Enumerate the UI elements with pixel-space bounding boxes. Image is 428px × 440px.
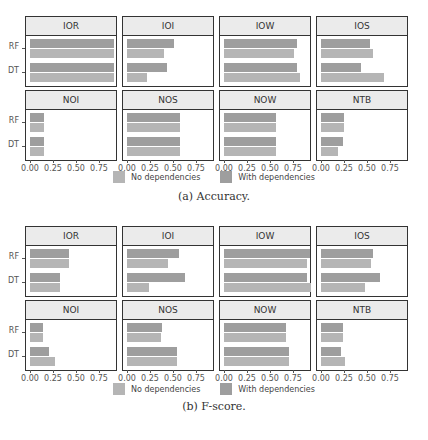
x-axis-tick: [293, 160, 294, 163]
x-axis-tick: [270, 160, 271, 163]
x-axis-tick: [127, 370, 128, 373]
y-axis-label-dt: DT: [1, 350, 19, 359]
bar-with-dependencies-dt: [321, 137, 343, 146]
bar-no-dependencies-rf: [127, 123, 180, 132]
bar-no-dependencies-rf: [127, 333, 161, 342]
bar-no-dependencies-rf: [224, 333, 286, 342]
x-axis-tick: [293, 370, 294, 373]
facet-plot-area: [317, 246, 407, 296]
x-axis-tick: [196, 370, 197, 373]
facet-strip-label: NOS: [123, 91, 213, 110]
facet-panel-ios: IOS: [316, 16, 408, 87]
bar-with-dependencies-dt: [224, 137, 276, 146]
bar-with-dependencies-dt: [127, 273, 185, 282]
x-axis-tick-label: 0.50: [67, 374, 85, 383]
x-axis-tick: [76, 370, 77, 373]
bar-with-dependencies-rf: [30, 249, 69, 258]
bar-no-dependencies-dt: [321, 147, 338, 156]
legend-label-with-dependencies: With dependencies: [238, 385, 315, 394]
facet-panel-nos: NOS: [122, 300, 214, 371]
legend-item-with-dependencies: With dependencies: [220, 171, 315, 183]
bar-with-dependencies-rf: [127, 113, 180, 122]
facet-strip-label: NOW: [220, 91, 310, 110]
facet-panel-ntb: NTB: [316, 300, 408, 371]
y-axis-label-rf: RF: [1, 252, 19, 261]
bar-with-dependencies-rf: [321, 323, 343, 332]
x-axis-tick: [390, 370, 391, 373]
legend-label-no-dependencies: No dependencies: [131, 385, 200, 394]
x-axis-tick-label: 0.75: [381, 374, 399, 383]
bar-with-dependencies-rf: [127, 39, 174, 48]
x-axis-tick: [99, 160, 100, 163]
bar-no-dependencies-dt: [224, 283, 311, 292]
x-axis-tick: [321, 370, 322, 373]
bar-with-dependencies-rf: [224, 39, 297, 48]
x-axis: 0.000.250.500.75: [219, 370, 311, 384]
bar-no-dependencies-rf: [127, 49, 164, 58]
x-axis-tick: [150, 160, 151, 163]
bar-with-dependencies-rf: [321, 113, 344, 122]
facet-panel-ioi: IOI: [122, 16, 214, 87]
x-axis-tick: [344, 370, 345, 373]
legend-item-no-dependencies: No dependencies: [113, 383, 200, 395]
bar-with-dependencies-rf: [30, 113, 44, 122]
legend-item-no-dependencies: No dependencies: [113, 171, 200, 183]
x-axis-tick: [150, 370, 151, 373]
bar-no-dependencies-rf: [30, 123, 44, 132]
bar-no-dependencies-dt: [224, 147, 276, 156]
x-axis: 0.000.250.500.75: [122, 370, 214, 384]
facet-plot-area: [123, 320, 213, 370]
bar-with-dependencies-dt: [30, 273, 60, 282]
x-axis: 0.000.250.500.75: [25, 370, 117, 384]
x-axis-tick-label: 0.00: [215, 374, 233, 383]
facet-strip-label: IOW: [220, 17, 310, 36]
x-axis-tick: [30, 370, 31, 373]
bar-no-dependencies-dt: [321, 357, 345, 366]
bar-no-dependencies-dt: [127, 283, 149, 292]
y-axis-tick: [22, 146, 25, 147]
facet-panel-ntb: NTB: [316, 90, 408, 161]
x-axis-tick-label: 0.25: [44, 374, 62, 383]
legend: No dependenciesWith dependencies: [0, 171, 428, 183]
bar-no-dependencies-dt: [30, 283, 60, 292]
y-axis-tick: [22, 48, 25, 49]
bar-no-dependencies-dt: [30, 357, 55, 366]
x-axis-tick: [30, 160, 31, 163]
x-axis-tick-label: 0.25: [335, 374, 353, 383]
facet-plot-area: [123, 246, 213, 296]
facet-plot-area: [220, 320, 310, 370]
x-axis-tick-label: 0.25: [141, 374, 159, 383]
bar-no-dependencies-dt: [127, 73, 147, 82]
x-axis-tick: [127, 160, 128, 163]
bar-no-dependencies-rf: [224, 259, 307, 268]
facet-plot-area: [317, 320, 407, 370]
x-axis-tick-label: 0.00: [312, 374, 330, 383]
facet-panel-iow: IOW: [219, 16, 311, 87]
legend-swatch-no-dependencies: [113, 383, 125, 395]
bar-no-dependencies-rf: [224, 49, 294, 58]
bar-with-dependencies-rf: [224, 249, 310, 258]
x-axis-tick: [344, 160, 345, 163]
bar-no-dependencies-rf: [30, 259, 69, 268]
facet-plot-area: [123, 110, 213, 160]
bar-no-dependencies-dt: [321, 283, 365, 292]
x-axis-tick: [247, 370, 248, 373]
facet-strip-label: IOS: [317, 17, 407, 36]
x-axis-tick: [367, 160, 368, 163]
y-axis-label-dt: DT: [1, 140, 19, 149]
bar-with-dependencies-rf: [30, 39, 114, 48]
bar-with-dependencies-dt: [321, 63, 361, 72]
legend: No dependenciesWith dependencies: [0, 383, 428, 395]
x-axis-tick: [247, 160, 248, 163]
bar-no-dependencies-rf: [127, 259, 168, 268]
bar-with-dependencies-rf: [224, 113, 276, 122]
facet-plot-area: [220, 246, 310, 296]
x-axis-tick-label: 0.50: [358, 374, 376, 383]
x-axis-tick-label: 0.00: [21, 374, 39, 383]
x-axis-tick: [196, 160, 197, 163]
bar-with-dependencies-dt: [321, 347, 341, 356]
facet-strip-label: IOR: [26, 17, 116, 36]
legend-label-with-dependencies: With dependencies: [238, 173, 315, 182]
x-axis-tick: [76, 160, 77, 163]
y-axis-label-dt: DT: [1, 66, 19, 75]
